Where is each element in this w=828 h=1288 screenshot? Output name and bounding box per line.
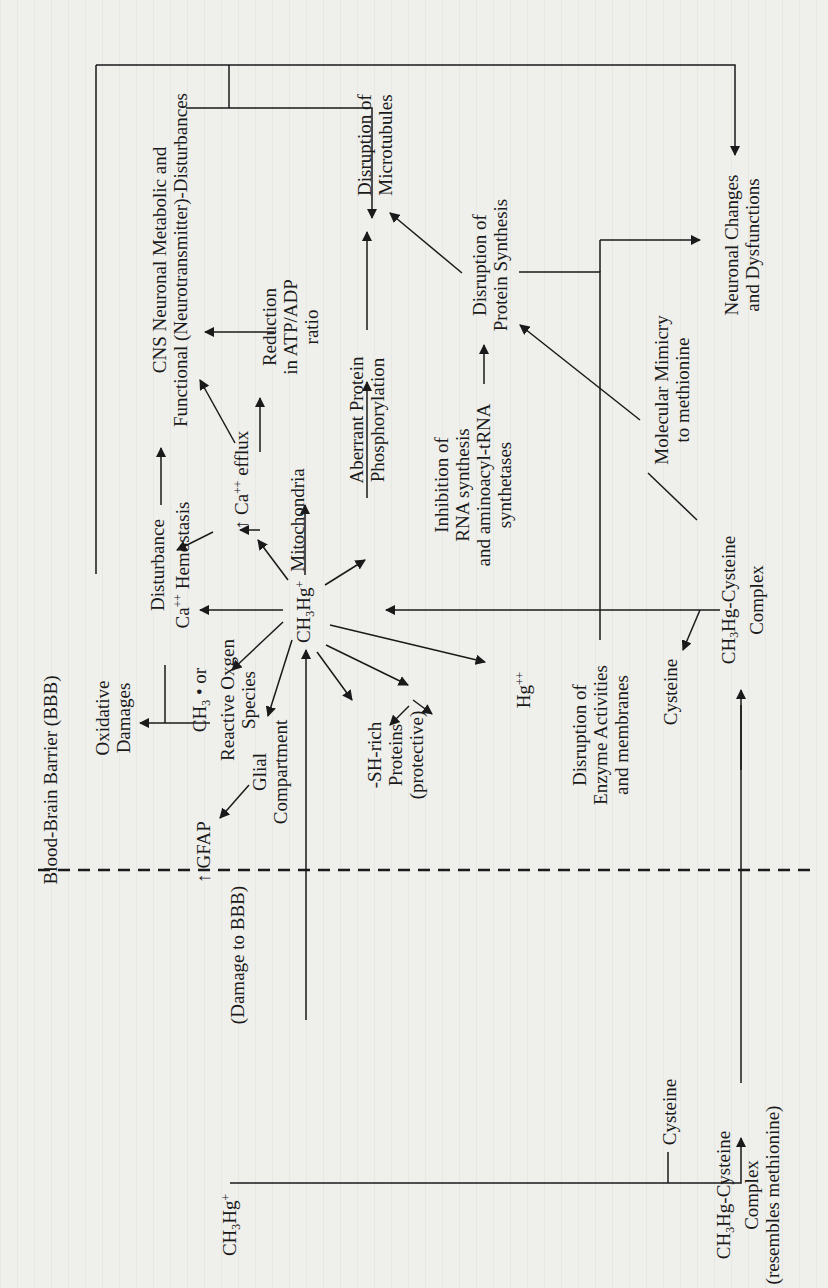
node-calcium-efflux: ↑ Ca++ efflux [228,431,252,529]
node-rna-inhibition: Inhibition ofRNA synthesisand aminoacyl-… [431,403,515,566]
node-calcium-hemostasis: Disturbance Ca++ Hemostasis [147,502,192,629]
node-brain-cysteine-complex: CH3Hg-Cysteine Complex [718,536,767,664]
node-central-methylmercury: CH3Hg+ [290,581,321,643]
node-blood-methylmercury: CH3Hg+ [216,1194,247,1256]
node-microtubule-disruption: Disruption ofMicrotubules [354,94,396,196]
node-blood-cysteine: Cysteine [659,1079,680,1146]
node-atp-reduction: Reductionin ATP/ADPratio [259,279,322,375]
node-aberrant-phosphorylation: Aberrant ProteinPhosphorylation [346,356,388,483]
node-gfap: ↑ GFAP [193,821,214,882]
node-enzyme-disruption: Disruption ofEnzyme Activitiesand membra… [569,665,632,805]
node-neuronal-changes: Neuronal Changesand Dysfunctions [721,175,763,316]
node-cns-disturbances: CNS Neuronal Metabolic andFunctional (Ne… [149,93,191,427]
scanned-page: Blood-Brain Barrier (BBB) CH3Hg+ Cystein… [0,0,828,1288]
node-reactive-oxygen-species: CH3 • or Reactive Oxgen Species [189,639,259,761]
node-blood-cysteine-complex: CH3Hg-Cysteine Complex (resembles methio… [713,1106,783,1285]
node-mitochondria: Mitochondria [287,468,308,571]
node-sh-rich-proteins: -SH-richProteins(protective) [364,711,427,800]
node-protein-synthesis-disruption: Disruption ofProtein Synthesis [469,199,511,331]
node-mercuric-ion: Hg++ [510,672,534,709]
outer-frame-connector [96,65,735,574]
label-blood-brain-barrier: Blood-Brain Barrier (BBB) [40,676,61,885]
node-oxidative-damages: OxidativeDamages [92,681,134,756]
node-damage-to-bbb: (Damage to BBB) [227,886,248,1024]
node-molecular-mimicry: Molecular Mimicryto methionine [651,315,693,464]
node-brain-cysteine: Cysteine [660,659,681,726]
diagram-connectors [0,0,828,1288]
